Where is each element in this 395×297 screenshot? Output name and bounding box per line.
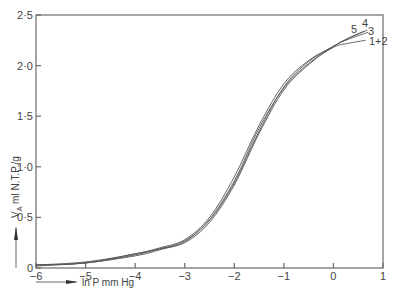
curves	[36, 30, 368, 266]
y-tick-label: 2·0	[17, 60, 33, 72]
curve-1-plus-2	[36, 40, 366, 266]
curve-4	[36, 30, 367, 265]
y-axis-title-group: VA ml N.T.P./g	[10, 156, 23, 268]
y-tick-label: 0	[27, 262, 33, 274]
y-tick-label: 1·5	[17, 110, 33, 122]
y-axis-title-rest: ml N.T.P./g	[10, 156, 21, 206]
x-axis-arrowhead-icon	[66, 280, 78, 284]
x-tick-label: −1	[278, 270, 291, 282]
x-tick-label: −2	[228, 270, 241, 282]
x-tick-label: 1	[380, 270, 386, 282]
y-axis-arrowhead-icon	[14, 226, 18, 240]
plot-border	[36, 15, 383, 268]
x-tick-label: −3	[178, 270, 191, 282]
x-axis-title-group: ln P mm Hg	[36, 277, 134, 288]
curve-3	[36, 32, 368, 265]
plot-frame	[36, 15, 383, 268]
curve-label: 1+2	[369, 35, 388, 47]
y-axis-ticks: 00·51·01·52·02·5	[17, 9, 41, 274]
curve-label: 5	[351, 23, 357, 35]
x-tick-label: 0	[330, 270, 336, 282]
curve-labels: 5431+2	[351, 17, 388, 47]
x-axis-title: ln P mm Hg	[82, 277, 134, 288]
y-tick-label: 2·5	[17, 9, 33, 21]
adsorption-isotherm-chart: −6−5−4−3−2−101 00·51·01·52·02·5 5431+2 l…	[0, 0, 395, 297]
